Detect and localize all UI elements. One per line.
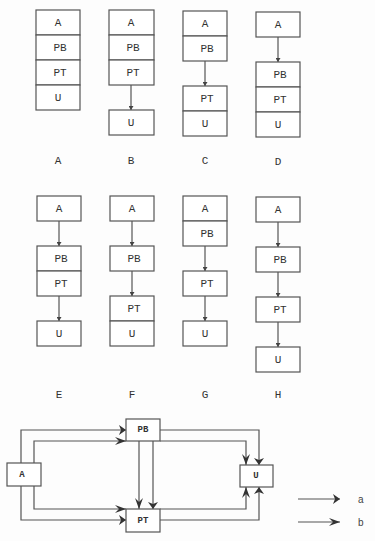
graph-node-label: A <box>19 470 25 480</box>
stage-label: U <box>55 92 62 104</box>
stage-label: U <box>56 328 63 340</box>
diagram-canvas: A PB PT U A A PB PT U B A PB PT U C A <box>0 0 375 541</box>
stage-label: A <box>129 203 136 215</box>
stage-label: U <box>275 354 282 366</box>
stage-label: PB <box>127 253 141 265</box>
config-caption: B <box>128 155 135 167</box>
edge-pb-u-b <box>160 441 246 465</box>
stage-label: PT <box>53 67 67 79</box>
config-c: A PB PT U C <box>183 11 227 167</box>
stage-label: A <box>275 204 282 216</box>
stage-label: PT <box>273 94 287 106</box>
edge-pt-u-a <box>160 487 259 520</box>
edge-a-pt-a <box>21 486 126 520</box>
edge-a-pb-a <box>21 430 126 463</box>
graph-node-label: U <box>253 471 258 481</box>
config-caption: G <box>202 389 209 401</box>
config-caption: H <box>275 389 282 401</box>
stage-label: A <box>128 17 135 29</box>
stage-label: U <box>275 119 282 131</box>
stage-label: A <box>202 18 209 30</box>
edge-a-pb-b <box>34 441 126 463</box>
graph-node-label: PT <box>138 516 149 526</box>
config-b: A PB PT U B <box>109 10 154 167</box>
config-caption: D <box>275 156 282 168</box>
stage-label: PT <box>54 278 68 290</box>
stage-label: PB <box>200 228 214 240</box>
config-caption: E <box>56 389 63 401</box>
config-caption: A <box>55 155 62 167</box>
stage-label: U <box>202 328 209 340</box>
edge-pt-u-b <box>160 487 246 509</box>
stage-label: PT <box>273 304 287 316</box>
stage-label: A <box>275 19 282 31</box>
config-d: A PB PT U D <box>256 12 300 168</box>
stage-label: A <box>56 203 63 215</box>
stage-label: PB <box>273 69 287 81</box>
stage-label: PB <box>200 43 214 55</box>
stage-label: U <box>129 328 136 340</box>
stage-label: PB <box>54 253 68 265</box>
stage-label: PT <box>200 278 214 290</box>
config-h: A PB PT U H <box>256 197 300 401</box>
stage-label: U <box>202 118 209 130</box>
config-a: A PB PT U A <box>36 10 80 167</box>
stage-label: U <box>128 117 135 129</box>
stage-label: PT <box>200 93 214 105</box>
edge-pb-u-a <box>160 430 259 465</box>
communication-graph: A PB PT U <box>7 419 273 532</box>
legend-label-a: a <box>358 494 364 505</box>
stage-label: A <box>55 17 62 29</box>
stage-label: PB <box>53 42 67 54</box>
stage-label: PB <box>126 42 140 54</box>
config-e: A PB PT U E <box>37 196 81 401</box>
graph-node-label: PB <box>138 425 149 435</box>
legend: a b <box>298 494 364 528</box>
config-caption: F <box>129 389 136 401</box>
config-caption: C <box>202 155 209 167</box>
stage-label: A <box>202 203 209 215</box>
legend-label-b: b <box>358 517 364 528</box>
stage-label: PT <box>127 303 141 315</box>
edge-a-pt-b <box>34 486 126 509</box>
config-g: A PB PT U G <box>183 196 227 401</box>
stage-label: PB <box>273 254 287 266</box>
config-f: A PB PT U F <box>110 196 154 401</box>
stage-label: PT <box>126 67 140 79</box>
